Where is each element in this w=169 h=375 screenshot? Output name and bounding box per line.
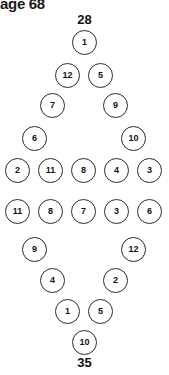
number-node: 7	[40, 93, 65, 118]
number-node: 11	[38, 158, 63, 183]
bottom-sum-label: 35	[0, 355, 169, 370]
number-node: 4	[40, 268, 65, 293]
number-node: 3	[104, 199, 129, 224]
number-node: 8	[71, 158, 96, 183]
number-node: 2	[103, 268, 128, 293]
number-node: 3	[137, 158, 162, 183]
number-node: 10	[121, 126, 146, 151]
number-node: 2	[5, 158, 30, 183]
number-node: 7	[71, 199, 96, 224]
number-node: 5	[88, 299, 113, 324]
number-node: 12	[55, 63, 80, 88]
number-node: 1	[55, 299, 80, 324]
page-header-text: age 68	[0, 0, 45, 12]
number-node: 6	[22, 126, 47, 151]
number-node: 9	[22, 237, 47, 262]
number-node: 4	[104, 158, 129, 183]
number-node: 6	[137, 199, 162, 224]
top-sum-label: 28	[0, 12, 169, 27]
number-node: 11	[5, 199, 30, 224]
puzzle-page: age 68 28 112579610211843118736912421510…	[0, 0, 169, 375]
number-node: 8	[38, 199, 63, 224]
number-node: 10	[72, 330, 97, 355]
number-node: 12	[121, 237, 146, 262]
number-node: 5	[88, 63, 113, 88]
number-node: 1	[72, 30, 97, 55]
number-node: 9	[103, 93, 128, 118]
